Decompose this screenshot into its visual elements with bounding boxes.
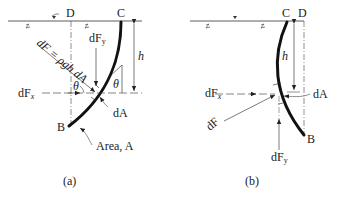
label-dFy: dFy (89, 31, 106, 46)
dF-arrow (224, 95, 275, 121)
water-level-triangle-icon (52, 16, 56, 19)
label-theta-1: θ (73, 79, 79, 93)
water-level-triangle-icon (233, 16, 237, 19)
water-wave-icon (26, 24, 30, 28)
label-dF-equation: dF = ρgh dA (34, 36, 91, 87)
label-theta-2: θ (113, 77, 119, 91)
panel-a: D C B h dF = ρgh dA dFy dFx θ θ dA Area,… (8, 6, 144, 188)
water-wave-icon (261, 24, 265, 28)
label-dFy: dFy (271, 150, 288, 165)
label-C: C (117, 6, 125, 20)
label-h: h (138, 49, 144, 63)
label-dFx: dFx (205, 86, 222, 101)
fluid-force-diagram: D C B h dF = ρgh dA dFy dFx θ θ dA Area,… (0, 0, 337, 203)
water-wave-icon (85, 24, 89, 28)
label-dF: dF (203, 114, 222, 133)
dA-pointer (284, 94, 310, 97)
label-h: h (282, 49, 288, 63)
caption-b: (b) (245, 174, 259, 188)
water-wave-icon (206, 24, 210, 28)
dA-tick (95, 84, 99, 88)
water-surface-marker (52, 14, 59, 16)
label-B: B (307, 132, 315, 146)
area-pointer (80, 128, 92, 145)
dA-tick (278, 103, 283, 104)
curved-surface-CB (277, 22, 304, 135)
label-C: C (282, 6, 290, 20)
label-D: D (298, 6, 307, 20)
panel-b: C D B h dFx dF dFy dA (b) (190, 6, 328, 188)
label-B: B (57, 120, 65, 134)
label-dA: dA (113, 106, 128, 120)
label-dFx: dFx (18, 86, 35, 101)
label-area: Area, A (96, 139, 134, 153)
label-D: D (66, 6, 75, 20)
theta-arc (80, 86, 84, 93)
label-dA: dA (313, 87, 328, 101)
dA-pointer (100, 97, 108, 107)
caption-a: (a) (63, 174, 76, 188)
